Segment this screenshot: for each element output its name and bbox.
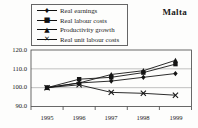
x-axis-tick-label: 1999 [163,113,189,122]
x-axis-tick-label: 1995 [34,113,60,122]
x-axis-tick-label: 1997 [98,113,124,122]
y-axis-tick-label: 110.0 [0,65,27,73]
y-axis-tick-label: 100.0 [0,83,27,91]
x-axis-tick-label: 1996 [66,113,92,122]
x-axis-tick-label: 1998 [130,113,156,122]
y-axis-tick-label: 120.0 [0,46,27,54]
plot-area [0,0,198,128]
line-chart-figure: Malta ♦ Real earnings ■ Real labour cost… [0,0,198,128]
y-axis-tick-label: 90.0 [0,102,27,110]
